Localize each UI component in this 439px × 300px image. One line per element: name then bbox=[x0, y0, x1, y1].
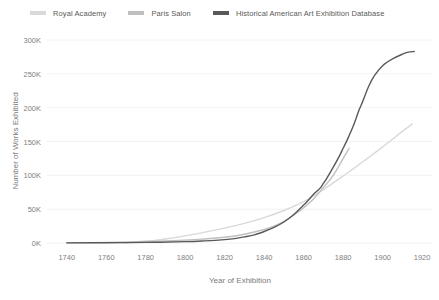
x-axis-tick-label: 1740 bbox=[58, 253, 75, 262]
plot-svg: 0K50K100K150K200K250K300K 17401760178018… bbox=[0, 0, 439, 300]
y-axis-title: Number of Works Exhibited bbox=[11, 92, 20, 189]
x-axis-tick-label: 1840 bbox=[256, 253, 273, 262]
x-axis-tick-label: 1920 bbox=[414, 253, 431, 262]
x-axis-tick-label: 1800 bbox=[177, 253, 194, 262]
series-line bbox=[67, 148, 349, 243]
y-axis-tick-label: 50K bbox=[28, 205, 41, 214]
x-axis-title: Year of Exhibition bbox=[209, 276, 271, 285]
x-axis-tick-label: 1820 bbox=[216, 253, 233, 262]
x-axis-tick-label: 1880 bbox=[335, 253, 352, 262]
exhibition-works-line-chart: Royal Academy Paris Salon Historical Ame… bbox=[0, 0, 439, 300]
x-axis-tick-label: 1860 bbox=[295, 253, 312, 262]
y-axis-tick-label: 300K bbox=[23, 36, 41, 45]
data-series-lines bbox=[67, 52, 414, 243]
y-axis-tick-label: 250K bbox=[23, 70, 41, 79]
series-line bbox=[67, 52, 414, 243]
y-axis-tick-label: 0K bbox=[32, 239, 41, 248]
y-axis-tick-label: 150K bbox=[23, 138, 41, 147]
gridlines bbox=[47, 40, 432, 243]
x-axis-tick-labels: 1740176017801800182018401860188019001920 bbox=[58, 253, 430, 262]
y-axis-tick-label: 200K bbox=[23, 104, 41, 113]
x-axis-tick-label: 1760 bbox=[98, 253, 115, 262]
x-axis-tick-label: 1900 bbox=[374, 253, 391, 262]
y-axis-tick-labels: 0K50K100K150K200K250K300K bbox=[23, 36, 41, 248]
x-axis-tick-label: 1780 bbox=[137, 253, 154, 262]
y-axis-tick-label: 100K bbox=[23, 171, 41, 180]
plot-area-wrapper: 0K50K100K150K200K250K300K 17401760178018… bbox=[0, 0, 439, 300]
